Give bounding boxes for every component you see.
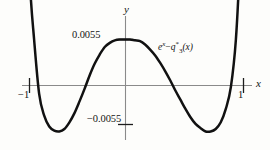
- error-curve-path: [22, 0, 248, 132]
- xtick-label-neg1: −1: [18, 90, 29, 101]
- y-axis-label: y: [124, 4, 129, 15]
- xtick-label-pos1: 1: [238, 90, 243, 101]
- ytick-label-positive: 0.0055: [72, 30, 100, 41]
- curve-annotation-label: ex−q*3(x): [158, 41, 193, 55]
- chart-figure: 0.0055 −0.0055 −1 1 y x ex−q*3(x): [0, 0, 270, 150]
- ytick-label-negative: −0.0055: [87, 114, 121, 125]
- x-axis-label: x: [256, 78, 261, 89]
- curve-label-arg: (x): [182, 42, 193, 52]
- plot-canvas: [0, 0, 270, 150]
